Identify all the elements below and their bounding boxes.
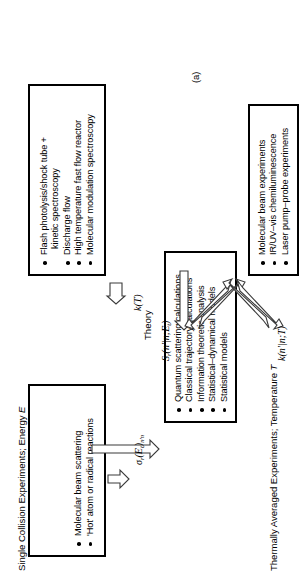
header-single-collision-text: Single Collision Experiments; Energy	[16, 413, 27, 571]
label-cross-section-symbol: σ	[133, 460, 144, 465]
figure-caption: (a)	[190, 72, 201, 83]
arrow-single-collision-to-label	[108, 469, 130, 489]
list-item: Molecular modulation spectroscopy	[85, 114, 96, 266]
label-kt-symbol: k	[132, 307, 143, 311]
box-single-collision-experiments: Molecular beam scattering 'Hot' atom or …	[28, 384, 106, 557]
label-state-to-state-rate: k(n'|n;T)	[276, 326, 287, 361]
label-knnt-symbol: k	[276, 357, 287, 361]
header-thermally-averaged-experiments: Thermally Averaged Experiments; Temperat…	[268, 365, 279, 571]
label-cross-section-sub-nn: n'n	[138, 435, 145, 443]
arrow-theory-to-state-resolved-lower	[222, 267, 270, 329]
label-srnne-close: )	[160, 321, 171, 324]
header-single-collision-experiments: Single Collision Experiments; Energy E	[16, 407, 27, 571]
label-cross-section-arg: (E	[133, 448, 144, 457]
label-cross-section-sub-r: r	[138, 457, 145, 460]
list-item: Molecular beam experiments	[257, 128, 268, 266]
figure-canvas: Single Collision Experiments; Energy E T…	[0, 0, 300, 587]
label-knnt-arg: (n'|n;T)	[276, 326, 287, 356]
list-single-collision-experiments: Molecular beam scattering 'Hot' atom or …	[73, 418, 96, 547]
label-srnne-arg: (n'|n;E	[160, 326, 171, 354]
header-single-collision-symbol: E	[16, 407, 27, 413]
diagram-canvas: Single Collision Experiments; Energy E T…	[0, 0, 300, 587]
header-thermally-averaged-symbol: T	[268, 365, 279, 371]
list-item: Molecular beam scattering	[73, 418, 84, 547]
list-item: IR/UV–vis chemiluminescence	[268, 128, 279, 266]
label-srnne-sub-r: r	[165, 353, 172, 356]
label-cross-section: σr(Et)n'n	[133, 435, 145, 465]
label-cross-section-close: )	[133, 443, 144, 446]
box-thermally-averaged-experiments: Flash photolysis/shock tube + kinetic sp…	[28, 84, 106, 276]
list-thermally-averaged-experiments: Flash photolysis/shock tube + kinetic sp…	[39, 114, 96, 266]
list-item: kinetic spectroscopy	[50, 114, 61, 266]
label-kt-arg: (T)	[132, 294, 143, 306]
label-thermal-rate: k(T)	[132, 294, 143, 311]
header-thermally-averaged-text: Thermally Averaged Experiments; Temperat…	[268, 370, 279, 571]
list-item: 'Hot' atom or radical reactions	[85, 418, 96, 547]
list-item: High temperature fast flow reactor	[73, 114, 84, 266]
label-srnne-sub-t: t	[165, 324, 172, 326]
list-item: Flash photolysis/shock tube +	[39, 114, 50, 266]
list-item: Discharge flow	[62, 114, 73, 266]
arrow-thermal-rate-out	[106, 283, 126, 305]
label-cross-section-sub-t: t	[138, 446, 145, 448]
label-state-to-state-cross-section: Sr(n'|n;Et)	[160, 321, 172, 361]
arrow-cross-section-to-theory	[92, 439, 160, 459]
box-state-resolved-experiments: Molecular beam experiments IR/UV–vis che…	[248, 104, 299, 276]
label-theory: Theory	[142, 310, 153, 340]
list-state-resolved-experiments: Molecular beam experiments IR/UV–vis che…	[257, 128, 291, 266]
list-item: Laser pump–probe experiments	[280, 128, 291, 266]
label-srnne-symbol: S	[160, 356, 171, 361]
